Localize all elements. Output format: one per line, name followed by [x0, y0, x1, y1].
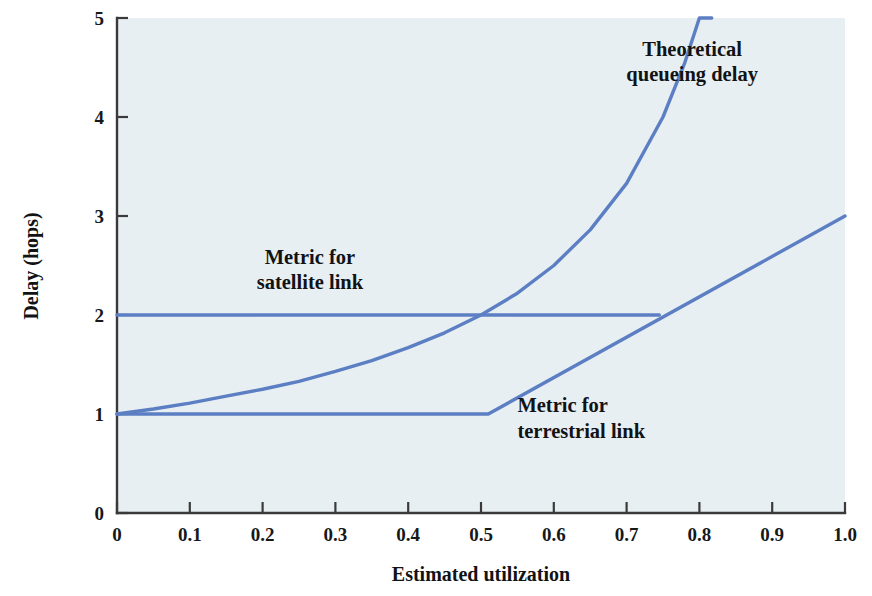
x-tick-label: 0.9 [760, 524, 784, 545]
x-tick-label: 0.5 [469, 524, 493, 545]
annotation-line: Metric for [517, 394, 607, 416]
y-tick-label: 3 [95, 206, 105, 227]
y-tick-label: 5 [95, 8, 105, 29]
annotation-line: terrestrial link [517, 420, 645, 442]
x-tick-label: 0.4 [396, 524, 420, 545]
x-tick-label: 0.3 [324, 524, 348, 545]
x-tick-label: 0.1 [178, 524, 202, 545]
delay-vs-utilization-chart: 012345 00.10.20.30.40.50.60.70.80.91.0 T… [0, 0, 872, 596]
x-tick-label: 0.6 [542, 524, 566, 545]
x-tick-label: 0 [112, 524, 122, 545]
annotation-line: Theoretical [642, 38, 742, 60]
annotation-line: Metric for [265, 246, 355, 268]
y-tick-label: 4 [95, 107, 105, 128]
plot-area-background [117, 18, 845, 513]
annotation-line: satellite link [257, 271, 364, 293]
x-axis-title: Estimated utilization [392, 563, 570, 585]
x-tick-label: 0.2 [251, 524, 275, 545]
x-tick-label: 0.7 [615, 524, 639, 545]
y-tick-label: 2 [95, 305, 105, 326]
y-axis-title: Delay (hops) [20, 212, 43, 319]
y-tick-label: 0 [95, 503, 105, 524]
x-tick-label: 1.0 [833, 524, 857, 545]
y-tick-label: 1 [95, 404, 105, 425]
x-axis-tick-labels: 00.10.20.30.40.50.60.70.80.91.0 [112, 524, 857, 545]
x-tick-label: 0.8 [688, 524, 712, 545]
annotation-line: queueing delay [626, 63, 758, 86]
y-axis-tick-labels: 012345 [95, 8, 105, 524]
